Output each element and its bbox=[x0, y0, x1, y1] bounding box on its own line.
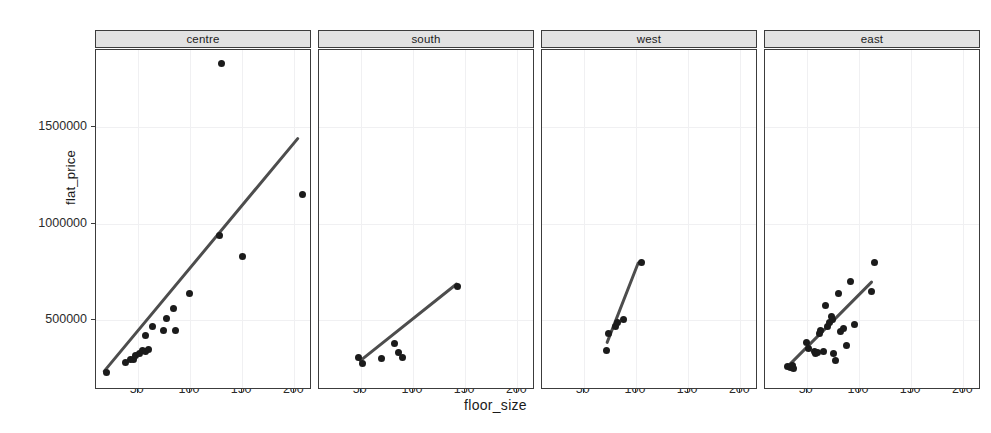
gridline-vertical bbox=[242, 50, 243, 388]
data-point bbox=[172, 327, 179, 334]
gridline-vertical bbox=[138, 50, 139, 388]
gridline-vertical bbox=[190, 50, 191, 388]
data-point bbox=[638, 259, 645, 266]
gridline-vertical bbox=[361, 50, 362, 388]
data-point bbox=[605, 330, 612, 337]
data-point bbox=[820, 348, 827, 355]
data-point bbox=[832, 357, 839, 364]
panel-strip-label-west: west bbox=[541, 30, 757, 48]
data-point bbox=[142, 332, 149, 339]
panel-plot-area-west bbox=[541, 49, 757, 389]
data-point bbox=[871, 259, 878, 266]
data-point bbox=[145, 346, 152, 353]
data-point bbox=[170, 305, 177, 312]
y-tick-label: 1000000 bbox=[15, 216, 87, 230]
data-point bbox=[218, 60, 225, 67]
x-axis-title: floor_size bbox=[0, 397, 991, 413]
y-tick-label: 500000 bbox=[15, 312, 87, 326]
gridline-vertical bbox=[911, 50, 912, 388]
gridline-horizontal bbox=[96, 127, 310, 128]
gridline-horizontal bbox=[765, 224, 979, 225]
data-point bbox=[103, 369, 110, 376]
regression-line-east bbox=[765, 50, 979, 388]
regression-line-south bbox=[319, 50, 533, 388]
data-point bbox=[378, 355, 385, 362]
regression-line-west bbox=[542, 50, 756, 388]
data-point bbox=[391, 340, 398, 347]
data-point bbox=[239, 253, 246, 260]
data-point bbox=[829, 316, 836, 323]
data-point bbox=[851, 321, 858, 328]
data-point bbox=[216, 232, 223, 239]
data-point bbox=[830, 350, 837, 357]
gridline-vertical bbox=[584, 50, 585, 388]
panel-strip-label-south: south bbox=[318, 30, 534, 48]
data-point bbox=[822, 302, 829, 309]
gridline-vertical bbox=[807, 50, 808, 388]
gridline-horizontal bbox=[765, 127, 979, 128]
data-point bbox=[160, 327, 167, 334]
gridline-horizontal bbox=[319, 224, 533, 225]
data-point bbox=[835, 290, 842, 297]
panel-plot-area-south bbox=[318, 49, 534, 389]
gridline-horizontal bbox=[542, 224, 756, 225]
data-point bbox=[817, 327, 824, 334]
data-point bbox=[603, 347, 610, 354]
data-point bbox=[790, 365, 797, 372]
data-point bbox=[868, 288, 875, 295]
data-point bbox=[847, 278, 854, 285]
data-point bbox=[843, 342, 850, 349]
panel-plot-area-centre bbox=[95, 49, 311, 389]
gridline-vertical bbox=[740, 50, 741, 388]
gridline-horizontal bbox=[96, 320, 310, 321]
gridline-horizontal bbox=[542, 127, 756, 128]
gridline-vertical bbox=[517, 50, 518, 388]
gridline-horizontal bbox=[542, 320, 756, 321]
gridline-vertical bbox=[636, 50, 637, 388]
data-point bbox=[399, 354, 406, 361]
data-point bbox=[454, 283, 461, 290]
gridline-vertical bbox=[294, 50, 295, 388]
data-point bbox=[149, 323, 156, 330]
data-point bbox=[299, 191, 306, 198]
gridline-vertical bbox=[963, 50, 964, 388]
gridline-horizontal bbox=[319, 320, 533, 321]
gridline-horizontal bbox=[765, 320, 979, 321]
regression-line-centre bbox=[96, 50, 310, 388]
gridline-horizontal bbox=[319, 127, 533, 128]
gridline-vertical bbox=[859, 50, 860, 388]
data-point bbox=[186, 290, 193, 297]
gridline-horizontal bbox=[96, 224, 310, 225]
data-point bbox=[359, 360, 366, 367]
panel-plot-area-east bbox=[764, 49, 980, 389]
facet-scatter-figure: flat_price floor_size 500000100000015000… bbox=[0, 0, 991, 433]
panel-strip-label-east: east bbox=[764, 30, 980, 48]
y-tick-label: 1500000 bbox=[15, 119, 87, 133]
gridline-vertical bbox=[688, 50, 689, 388]
data-point bbox=[840, 325, 847, 332]
gridline-vertical bbox=[413, 50, 414, 388]
data-point bbox=[620, 316, 627, 323]
panel-strip-label-centre: centre bbox=[95, 30, 311, 48]
gridline-vertical bbox=[465, 50, 466, 388]
